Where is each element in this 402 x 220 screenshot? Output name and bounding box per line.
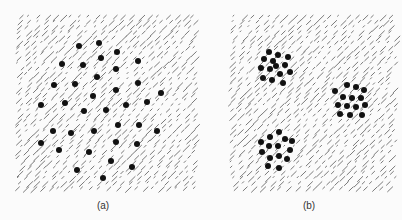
dot (135, 80, 141, 86)
dot (258, 65, 264, 71)
dot (158, 90, 164, 96)
panel-a-texture (0, 0, 201, 200)
dot (90, 93, 96, 99)
dot (273, 63, 279, 69)
dot (129, 164, 135, 170)
dot (269, 77, 275, 83)
dot (136, 122, 142, 128)
dot (270, 58, 276, 64)
dot (267, 134, 273, 140)
panel-a (0, 0, 201, 200)
dot (134, 141, 140, 147)
dot (280, 80, 286, 86)
dot (108, 158, 114, 164)
dot (62, 100, 68, 106)
dot (114, 49, 120, 55)
dot (113, 66, 119, 72)
dot (50, 128, 56, 134)
dot (275, 143, 281, 149)
dot (144, 99, 150, 105)
dot (282, 136, 288, 142)
dot (123, 102, 129, 108)
dot (51, 82, 57, 88)
dot (113, 139, 119, 145)
dot (337, 111, 343, 117)
dot (287, 147, 293, 153)
dot (113, 87, 119, 93)
dot (258, 139, 264, 145)
dot (81, 108, 87, 114)
dot (74, 167, 80, 173)
dot (265, 163, 271, 169)
dot (362, 102, 368, 108)
dot (86, 149, 92, 155)
dot (72, 81, 78, 87)
dot (59, 61, 65, 67)
dot (91, 128, 97, 134)
dot (353, 84, 359, 90)
dot (135, 58, 141, 64)
dot (287, 69, 293, 75)
dot (266, 49, 272, 55)
dot (94, 74, 100, 80)
dot (347, 112, 353, 118)
dot (358, 95, 364, 101)
dot (340, 94, 346, 100)
dot-group (38, 40, 164, 181)
dot (361, 87, 367, 93)
dot (289, 138, 295, 144)
dot (284, 156, 290, 162)
dot (359, 112, 365, 118)
dot (277, 71, 283, 77)
dot (80, 62, 86, 68)
dot (276, 129, 282, 135)
dot (98, 55, 104, 61)
dot (266, 143, 272, 149)
dot (267, 155, 273, 161)
dot (96, 40, 102, 46)
panel-b-caption: (b) (289, 200, 329, 211)
dot (344, 82, 350, 88)
dot (282, 62, 288, 68)
dot (76, 43, 82, 49)
line-texture (228, 15, 400, 193)
dot (56, 147, 62, 153)
dot (332, 88, 338, 94)
dot (261, 56, 267, 62)
dot (100, 175, 106, 181)
dot (115, 122, 121, 128)
panel-b (201, 0, 402, 200)
dot (103, 107, 109, 113)
dot (38, 140, 44, 146)
dot (276, 153, 282, 159)
dot (275, 52, 281, 58)
dot (267, 66, 273, 72)
dot (285, 54, 291, 60)
dot (38, 102, 44, 108)
dot (349, 95, 355, 101)
dot (259, 149, 265, 155)
dot (154, 128, 160, 134)
dot (344, 103, 350, 109)
dot (353, 104, 359, 110)
panel-b-texture (201, 0, 402, 200)
panel-a-caption: (a) (83, 200, 123, 211)
dot (68, 130, 74, 136)
dot (335, 102, 341, 108)
dot (260, 75, 266, 81)
dot (276, 165, 282, 171)
